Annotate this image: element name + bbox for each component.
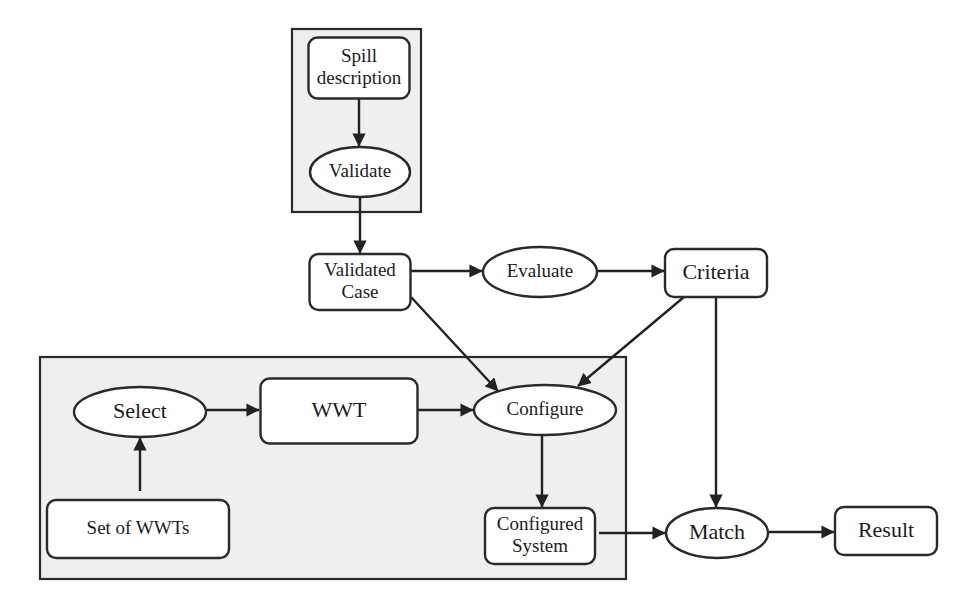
validated-case-label-line-2: Case <box>342 281 379 302</box>
wwt-label: WWT <box>312 397 368 422</box>
result-label: Result <box>858 517 914 542</box>
node-select: Select <box>74 387 206 437</box>
evaluate-label: Evaluate <box>507 260 573 281</box>
select-label: Select <box>113 398 167 423</box>
spill-description-label-line-1: Spill <box>341 45 377 66</box>
spill-description-label-line-2: description <box>317 67 402 88</box>
validated-case-label-line-1: Validated <box>324 259 396 280</box>
node-validate: Validate <box>310 147 410 197</box>
node-validated-case: ValidatedCase <box>310 254 411 310</box>
node-wwt: WWT <box>261 379 418 444</box>
node-configured-system: ConfiguredSystem <box>485 508 595 564</box>
match-label: Match <box>689 519 745 544</box>
criteria-label: Criteria <box>682 259 749 284</box>
node-spill-description: Spilldescription <box>309 38 410 99</box>
configure-label: Configure <box>506 398 583 419</box>
configured-system-label-line-2: System <box>512 535 568 556</box>
node-match: Match <box>666 508 768 558</box>
node-criteria: Criteria <box>665 249 767 297</box>
set-of-wwts-label: Set of WWTs <box>87 517 190 538</box>
arrow-criteria-to-configure <box>578 297 684 386</box>
node-evaluate: Evaluate <box>483 247 597 297</box>
node-configure: Configure <box>474 385 616 435</box>
validate-label: Validate <box>329 160 391 181</box>
node-set-of-wwts: Set of WWTs <box>47 500 229 558</box>
configured-system-label-line-1: Configured <box>497 513 584 534</box>
flow-diagram: SpilldescriptionValidateValidatedCaseEva… <box>0 0 980 610</box>
node-result: Result <box>835 507 937 555</box>
